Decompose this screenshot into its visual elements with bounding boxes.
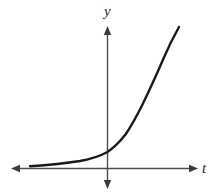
plot-canvas <box>0 0 214 195</box>
vertical-axis-down-arrow-icon <box>104 180 111 189</box>
exponential-curve <box>30 27 179 166</box>
t-axis-label: t <box>202 161 206 176</box>
vertical-axis-up-arrow-icon <box>104 26 111 35</box>
exponential-graph-figure: y t <box>0 0 214 195</box>
horizontal-axis-right-arrow-icon <box>189 165 198 172</box>
y-axis-label: y <box>104 4 111 19</box>
horizontal-axis-left-arrow-icon <box>11 165 20 172</box>
